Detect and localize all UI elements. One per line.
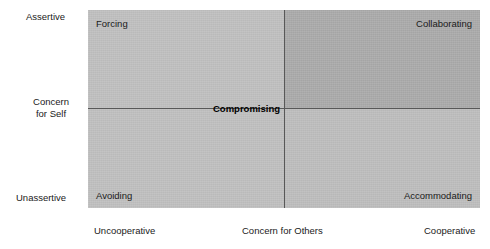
- quadrant-label-forcing: Forcing: [96, 18, 128, 29]
- x-axis-tick-cooperative: Cooperative: [424, 225, 475, 237]
- quadrant-label-avoiding: Avoiding: [96, 190, 132, 201]
- y-axis-title-line1: Concern: [20, 96, 82, 108]
- vertical-axis-line: [284, 10, 285, 208]
- y-axis-title: Concern for Self: [20, 96, 82, 120]
- quadrant-label-accommodating: Accommodating: [404, 190, 472, 201]
- plot-area: Forcing Collaborating Avoiding Accommoda…: [88, 10, 480, 208]
- y-axis-title-line2: for Self: [20, 108, 82, 120]
- y-axis-tick-unassertive: Unassertive: [16, 192, 66, 204]
- x-axis-tick-uncooperative: Uncooperative: [94, 225, 155, 237]
- y-axis-tick-assertive: Assertive: [26, 11, 65, 23]
- x-axis-title: Concern for Others: [242, 225, 323, 237]
- center-label-compromising: Compromising: [213, 103, 284, 114]
- conflict-mode-grid-figure: Assertive Concern for Self Unassertive F…: [0, 0, 490, 249]
- quadrant-label-collaborating: Collaborating: [416, 18, 472, 29]
